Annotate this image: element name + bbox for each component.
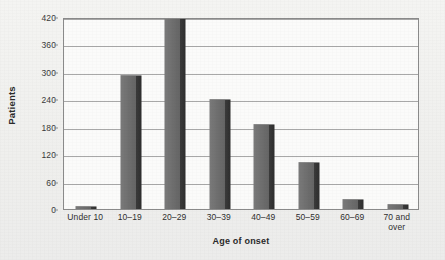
bar-40-49[interactable] <box>254 124 275 209</box>
bar-slot-70-and-over <box>376 19 421 209</box>
y-tick-label: 420 <box>30 13 56 23</box>
y-tick-mark <box>54 72 58 73</box>
bar-30-39[interactable] <box>209 99 230 209</box>
y-tick-label: 360 <box>30 40 56 50</box>
y-tick-mark <box>54 127 58 128</box>
bar-10-19[interactable] <box>120 75 141 209</box>
y-tick-mark <box>54 182 58 183</box>
bar-slot-20-29 <box>153 19 198 209</box>
y-axis-title-text: Patients <box>6 86 17 125</box>
x-axis-title: Age of onset <box>63 236 419 246</box>
y-tick-label: 0 <box>30 205 56 215</box>
bar-slot-10-19 <box>109 19 154 209</box>
y-tick-label: 60 <box>30 178 56 188</box>
bar-50-59[interactable] <box>298 162 319 209</box>
bars-layer <box>64 19 418 209</box>
bar-slot-40-49 <box>242 19 287 209</box>
bar-chart-figure: Patients 420 360 300 240 180 120 60 0 <box>0 0 445 260</box>
bar-60-69[interactable] <box>343 199 364 209</box>
y-tick-mark <box>54 155 58 156</box>
bar-70-and-over[interactable] <box>387 204 408 209</box>
y-tick-label: 120 <box>30 150 56 160</box>
x-tick-label-70-and-over: 70 and over <box>371 212 423 232</box>
x-tick-label-70-and-over-line1: 70 and <box>371 212 423 222</box>
y-tick-mark <box>54 18 58 19</box>
x-tick-label-70-and-over-line2: over <box>371 222 423 232</box>
bar-slot-under-10 <box>64 19 109 209</box>
bar-slot-60-69 <box>331 19 376 209</box>
y-tick-label: 240 <box>30 95 56 105</box>
plot-area <box>63 18 419 210</box>
y-axis-ticks: 420 360 300 240 180 120 60 0 <box>24 0 56 260</box>
y-tick-mark <box>54 45 58 46</box>
bar-under-10[interactable] <box>76 206 97 209</box>
bar-20-29[interactable] <box>165 18 186 209</box>
y-tick-mark <box>54 100 58 101</box>
y-tick-mark <box>54 210 58 211</box>
y-tick-label: 180 <box>30 123 56 133</box>
y-tick-label: 300 <box>30 68 56 78</box>
bar-slot-30-39 <box>198 19 243 209</box>
y-axis-title: Patients <box>0 0 22 210</box>
bar-slot-50-59 <box>287 19 332 209</box>
